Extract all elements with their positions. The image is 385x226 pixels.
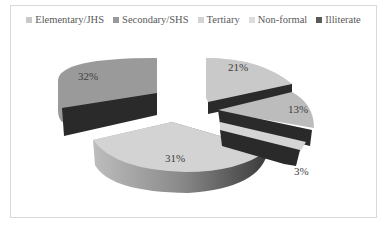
data-label-tertiary: 21%	[228, 61, 248, 73]
pie-chart: 32% 21% 13% 3% 31%	[0, 0, 385, 226]
data-label-illiterate: 3%	[294, 165, 309, 177]
slice-secondary	[58, 58, 157, 136]
data-label-secondary: 32%	[78, 70, 98, 82]
data-label-elementary: 31%	[165, 152, 185, 164]
data-label-nonformal: 13%	[288, 103, 308, 115]
